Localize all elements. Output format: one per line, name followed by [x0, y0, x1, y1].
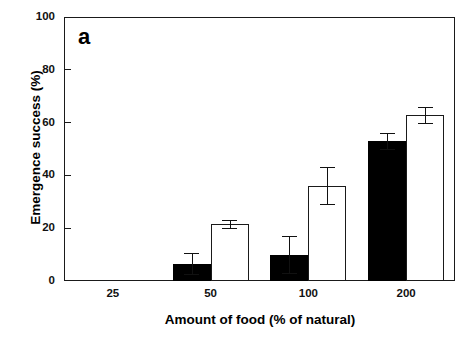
y-tick-mark: [64, 122, 71, 123]
y-tick-label: 0: [0, 274, 55, 286]
error-bar-cap-upper-open-50: [222, 220, 237, 221]
y-tick-label: 80: [0, 63, 55, 75]
error-bar-cap-lower-open-100: [320, 204, 335, 205]
error-bar-cap-upper-filled-200: [380, 133, 395, 134]
panel-letter: a: [78, 24, 90, 50]
x-tick-label-25: 25: [106, 287, 119, 299]
figure-panel-a: Emergence success (%) 020406080100 25501…: [0, 0, 473, 341]
error-bar-stem-open-50: [230, 220, 231, 228]
error-bar-cap-lower-open-200: [418, 123, 433, 124]
error-bar-cap-lower-filled-200: [380, 149, 395, 150]
y-tick-mark: [64, 228, 71, 229]
error-bar-cap-upper-filled-100: [282, 236, 297, 237]
x-tick-label-100: 100: [299, 287, 318, 299]
bar-open-50: [211, 224, 249, 281]
y-tick-label: 20: [0, 221, 55, 233]
error-bar-cap-lower-filled-100: [282, 273, 297, 274]
bar-filled-200: [368, 141, 406, 281]
error-bar-stem-filled-100: [289, 236, 290, 273]
error-bar-cap-upper-open-100: [320, 167, 335, 168]
error-bar-stem-filled-50: [192, 253, 193, 274]
y-tick-mark: [64, 69, 71, 70]
x-axis-title: Amount of food (% of natural): [64, 312, 456, 327]
error-bar-stem-open-200: [425, 107, 426, 123]
error-bar-cap-upper-filled-50: [184, 253, 199, 254]
y-tick-mark: [64, 175, 71, 176]
bar-open-200: [406, 115, 444, 281]
error-bar-stem-filled-200: [387, 133, 388, 149]
error-bar-stem-open-100: [327, 167, 328, 204]
error-bar-cap-lower-filled-50: [184, 274, 199, 275]
x-tick-label-50: 50: [204, 287, 217, 299]
y-tick-label: 100: [0, 10, 55, 22]
error-bar-cap-lower-open-50: [222, 228, 237, 229]
error-bar-cap-upper-open-200: [418, 107, 433, 108]
x-tick-label-200: 200: [397, 287, 416, 299]
y-tick-label: 60: [0, 116, 55, 128]
y-tick-label: 40: [0, 168, 55, 180]
